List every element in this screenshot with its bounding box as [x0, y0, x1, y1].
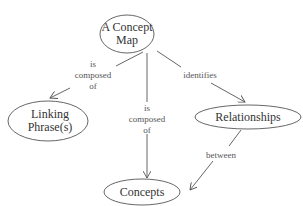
- concept-map-diagram: is composed of is composed of identifies…: [0, 0, 303, 206]
- link-label-between: between: [206, 150, 236, 160]
- node-concept-map[interactable]: A Concept Map: [100, 15, 154, 53]
- edge-relationships-to-concepts: between: [190, 130, 241, 190]
- link-label-is: is: [90, 59, 97, 69]
- node-concepts[interactable]: Concepts: [104, 179, 180, 205]
- link-label-composed: composed: [129, 114, 166, 124]
- link-label-composed: composed: [75, 70, 112, 80]
- edge-to-relationships: identifies: [157, 51, 245, 102]
- edge-to-concepts: is composed of: [129, 53, 166, 178]
- node-label-line1: A Concept: [102, 20, 154, 34]
- node-label: Concepts: [120, 185, 165, 199]
- link-label-is: is: [144, 103, 151, 113]
- node-label-line2: Phrase(s): [28, 120, 73, 134]
- edge-to-linking-phrases: is composed of: [50, 52, 143, 98]
- link-label-identifies: identifies: [183, 70, 217, 80]
- link-label-of: of: [89, 81, 97, 91]
- node-label-line2: Map: [116, 33, 138, 47]
- node-relationships[interactable]: Relationships: [195, 105, 301, 129]
- link-label-of: of: [143, 125, 151, 135]
- node-label-line1: Linking: [31, 107, 69, 121]
- node-label: Relationships: [215, 110, 281, 124]
- node-linking-phrases[interactable]: Linking Phrase(s): [8, 101, 88, 141]
